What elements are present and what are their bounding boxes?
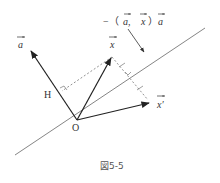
- label-vector-x-prime: x′: [156, 99, 164, 110]
- label-vector-x: x: [109, 39, 115, 50]
- vector-x-arrow: [77, 58, 111, 120]
- term-x: x: [140, 16, 146, 27]
- label-origin-o: O: [72, 122, 79, 133]
- term-a2: a: [158, 16, 163, 27]
- label-vector-a: a: [18, 39, 23, 50]
- vector-a-arrow: [31, 51, 77, 120]
- vector-x-prime-arrow: [77, 103, 149, 120]
- reflection-diagram: a x x′ H O −（ a, x ） a 図5-5: [0, 0, 220, 183]
- pointer-arrow: [128, 29, 144, 52]
- term-a1: a,: [123, 16, 131, 27]
- term-close: ）: [148, 16, 158, 27]
- right-angle-mark-h: [60, 86, 67, 90]
- projection-dashed-line: [62, 57, 112, 91]
- equal-tick-1: [119, 63, 125, 67]
- reflection-dashed-line: [112, 57, 148, 100]
- figure-caption: 図5-5: [100, 161, 124, 171]
- term-prefix: −（: [103, 16, 119, 27]
- label-foot-h: H: [44, 89, 51, 100]
